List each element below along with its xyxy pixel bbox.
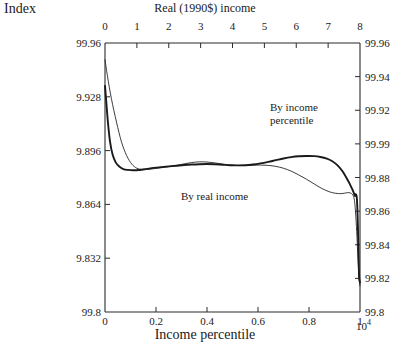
data-series: [105, 60, 360, 286]
plot-frame: [105, 43, 360, 312]
chart-container: Index Real (1990$) income Income percent…: [0, 0, 410, 348]
plot-area: [0, 0, 410, 348]
tick-marks: [105, 43, 360, 312]
series-line-2: [105, 60, 360, 286]
series-line-1: [105, 86, 360, 283]
